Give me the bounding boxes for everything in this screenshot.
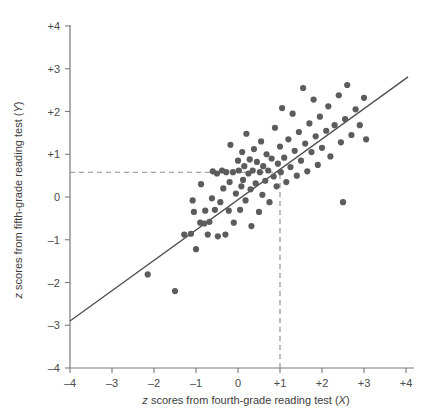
data-point [279, 105, 285, 111]
data-point [251, 146, 257, 152]
data-point [308, 149, 314, 155]
data-point [315, 162, 321, 168]
data-point [226, 208, 232, 214]
data-point [222, 232, 228, 238]
data-point [317, 114, 323, 120]
y-tick-label: +3 [47, 63, 60, 75]
scatter-plot-figure: –4–3–2–10+1+2+3+4 –4–3–2–10+1+2+3+4 z sc… [0, 0, 422, 418]
data-point [145, 271, 151, 277]
data-point [212, 207, 218, 213]
data-point [217, 199, 223, 205]
data-point [287, 164, 293, 170]
data-point [311, 96, 317, 102]
data-point [198, 181, 204, 187]
data-point [319, 145, 325, 151]
data-points [145, 82, 370, 294]
data-point [296, 129, 302, 135]
data-point [300, 85, 306, 91]
data-point [283, 179, 289, 185]
data-point [340, 199, 346, 205]
y-tick-label: –3 [48, 319, 60, 331]
data-point [348, 132, 354, 138]
x-tick-label: –2 [148, 377, 160, 389]
data-point [269, 155, 275, 161]
data-point [294, 173, 300, 179]
data-point [256, 209, 262, 215]
x-tick-label: +3 [358, 377, 371, 389]
data-point [230, 169, 236, 175]
data-point [238, 183, 244, 189]
data-point [313, 133, 319, 139]
y-tick-label: +1 [47, 148, 60, 160]
data-point [205, 232, 211, 238]
data-point [304, 168, 310, 174]
x-axis-title: z scores from fourth-grade reading test … [141, 394, 349, 406]
plot-canvas: –4–3–2–10+1+2+3+4 –4–3–2–10+1+2+3+4 z sc… [0, 0, 422, 418]
data-point [274, 183, 280, 189]
data-point [181, 232, 187, 238]
data-point [220, 185, 226, 191]
data-point [237, 207, 243, 213]
data-point [290, 111, 296, 117]
data-point [327, 153, 333, 159]
data-point [266, 199, 272, 205]
y-tick-label: +4 [47, 20, 60, 32]
data-point [227, 179, 233, 185]
data-point [233, 190, 239, 196]
data-point [271, 173, 277, 179]
y-tick-label: +2 [47, 106, 60, 118]
x-axis-ticks: –4–3–2–10+1+2+3+4 [64, 368, 412, 389]
data-point [344, 82, 350, 88]
data-point [172, 288, 178, 294]
data-point [191, 209, 197, 215]
data-point [236, 167, 242, 173]
data-point [254, 159, 260, 165]
regression-line [70, 77, 408, 321]
data-point [306, 120, 312, 126]
data-point [342, 116, 348, 122]
data-point [281, 155, 287, 161]
data-point [262, 178, 268, 184]
data-point [265, 167, 271, 173]
data-point [188, 231, 194, 237]
data-point [285, 136, 291, 142]
y-tick-label: –1 [48, 234, 60, 246]
data-point [302, 140, 308, 146]
data-point [215, 233, 221, 239]
data-point [193, 246, 199, 252]
x-tick-label: –1 [190, 377, 202, 389]
guide-lines [70, 172, 280, 368]
data-point [240, 177, 246, 183]
data-point [357, 122, 363, 128]
data-point [231, 220, 237, 226]
data-point [323, 128, 329, 134]
data-point [361, 95, 367, 101]
y-axis-title: z scores from fifth-grade reading test (… [12, 102, 24, 300]
x-tick-label: 0 [235, 377, 241, 389]
data-point [209, 195, 215, 201]
data-point [227, 142, 233, 148]
data-point [239, 149, 245, 155]
data-point [278, 169, 284, 175]
data-point [259, 192, 265, 198]
x-tick-label: –3 [106, 377, 118, 389]
least-squares-line [70, 77, 408, 321]
data-point [248, 186, 254, 192]
y-axis-ticks: –4–3–2–10+1+2+3+4 [47, 20, 70, 374]
data-point [272, 125, 278, 131]
y-tick-label: 0 [54, 191, 60, 203]
data-point [277, 143, 283, 149]
data-point [235, 158, 241, 164]
data-point [206, 219, 212, 225]
data-point [250, 167, 256, 173]
data-point [202, 208, 208, 214]
y-tick-label: –4 [48, 362, 60, 374]
data-point [223, 169, 229, 175]
data-point [363, 136, 369, 142]
data-point [338, 139, 344, 145]
data-point [260, 163, 266, 169]
data-point [243, 131, 249, 137]
data-point [190, 197, 196, 203]
data-point [353, 106, 359, 112]
data-point [292, 148, 298, 154]
